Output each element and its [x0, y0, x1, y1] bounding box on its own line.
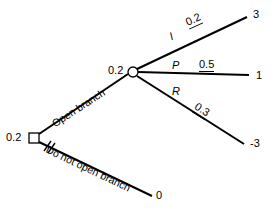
terminal-value-I: 3	[253, 9, 259, 20]
branch-line-P[interactable]	[138, 72, 249, 75]
terminal-value-P: 1	[256, 70, 262, 81]
chance-node-circle[interactable]	[128, 67, 138, 77]
terminal-value-R: -3	[250, 138, 260, 149]
branch-line-R[interactable]	[137, 76, 244, 144]
decision-node-square[interactable]	[29, 133, 39, 143]
terminal-value-do-not-open: 0	[156, 190, 162, 201]
event-label-P: P	[172, 60, 179, 71]
probability-label-P: 0.5	[199, 59, 214, 72]
decision-tree-diagram: 0.2 0.2 Open branch Do not open branch 0…	[0, 0, 275, 215]
chance-node-value: 0.2	[108, 65, 123, 76]
event-label-R: R	[172, 86, 180, 97]
tree-lines-svg	[0, 0, 275, 215]
decision-node-value: 0.2	[6, 132, 21, 143]
